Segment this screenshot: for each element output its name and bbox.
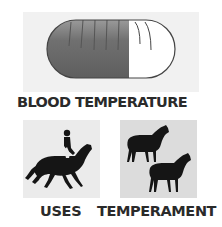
blood-temperature-label: BLOOD TEMPERATURE <box>17 94 187 110</box>
temperament-label: TEMPERAMENT <box>97 203 216 219</box>
thermometer-pill-icon <box>23 12 199 92</box>
blood-temperature-panel <box>23 12 199 92</box>
uses-label: USES <box>40 203 81 219</box>
horse-and-rider-icon <box>23 120 100 198</box>
temperament-panel <box>120 120 197 198</box>
uses-panel <box>23 120 100 198</box>
two-horses-icon <box>120 120 197 198</box>
